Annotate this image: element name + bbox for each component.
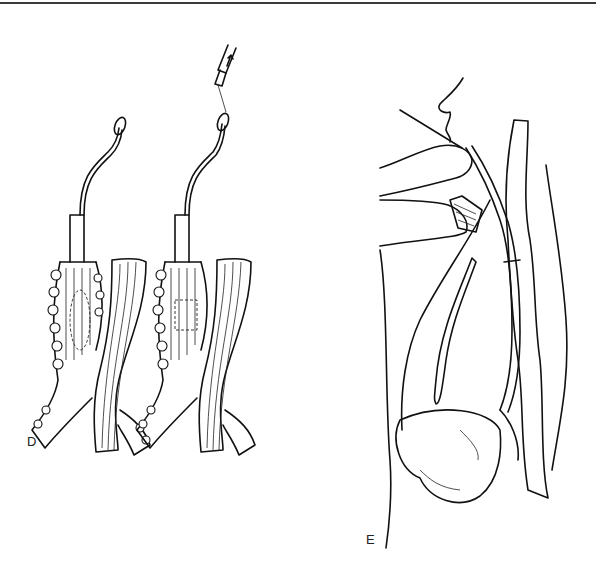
panel-label-e: E [366, 532, 375, 547]
syringe-icon [215, 45, 236, 112]
panel-e-sagittal-view [380, 78, 567, 548]
panel-d-left-specimen [32, 116, 150, 455]
panel-label-d: D [27, 434, 36, 449]
panel-d-right-specimen [137, 112, 255, 455]
medical-illustration [0, 0, 606, 571]
